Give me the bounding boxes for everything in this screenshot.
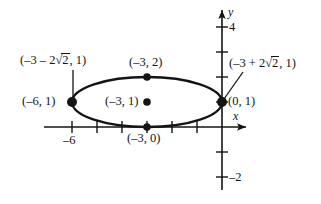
sqrt-radical-right: √2 — [265, 56, 279, 70]
x-tick-label-minus-6: –6 — [63, 134, 76, 147]
point-top-covertex — [143, 73, 151, 81]
point-center — [143, 98, 151, 106]
label-right-focus: (–3 + 2√2, 1) — [229, 56, 296, 70]
label-left-vertex: (–6, 1) — [22, 95, 55, 108]
label-left-focus: (–3 – 2√2, 1) — [20, 53, 86, 67]
label-right-vertex: (0, 1) — [228, 95, 255, 108]
point-bottom-covertex — [143, 123, 151, 131]
point-left-vertex — [67, 97, 77, 107]
x-axis-label: x — [233, 110, 238, 122]
sqrt-radical-left: √2 — [55, 53, 69, 67]
label-center: (–3, 1) — [105, 95, 138, 108]
sqrt-radicand-left: 2 — [61, 53, 69, 67]
label-left-focus-suffix: , 1) — [70, 53, 87, 67]
label-left-focus-prefix: (–3 – 2 — [20, 53, 55, 67]
y-tick-label-minus-2: –2 — [229, 171, 242, 184]
label-top-covertex: (–3, 2) — [129, 56, 162, 69]
figure-canvas: y x 4 –2 –6 (–3 – 2√2, 1) (–3 + 2√2, 1) … — [0, 0, 321, 204]
point-right-vertex — [217, 97, 227, 107]
label-right-focus-prefix: (–3 + 2 — [229, 56, 265, 70]
y-tick-label-4: 4 — [229, 21, 235, 34]
y-axis-label: y — [228, 6, 233, 18]
label-bottom-covertex: (–3, 0) — [127, 132, 160, 145]
label-right-focus-suffix: , 1) — [279, 56, 296, 70]
sqrt-radicand-right: 2 — [271, 56, 279, 70]
